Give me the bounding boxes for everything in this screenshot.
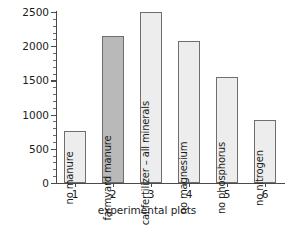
y-axis-minor-tick — [53, 135, 56, 136]
x-axis-tick — [113, 183, 114, 187]
y-axis-minor-tick — [53, 39, 56, 40]
bar[interactable]: no phosphorus — [216, 77, 238, 183]
y-axis-tick — [51, 183, 56, 184]
y-axis-minor-tick — [53, 19, 56, 20]
y-axis-tick — [51, 149, 56, 150]
y-axis-minor-tick — [53, 162, 56, 163]
bar-chart: yield (kg per hectare) 05001000150020002… — [0, 0, 294, 225]
y-axis-minor-tick — [53, 74, 56, 75]
x-axis-tick — [189, 183, 190, 187]
y-axis-minor-tick — [53, 33, 56, 34]
y-axis-tick-label: 2000 — [22, 41, 49, 52]
bar[interactable]: no manure — [64, 131, 86, 183]
x-axis-tick-label: 4 — [186, 189, 193, 200]
y-axis-minor-tick — [53, 94, 56, 95]
y-axis-minor-tick — [53, 53, 56, 54]
bar[interactable]: no magnesium — [178, 41, 200, 183]
x-axis-tick-label: 1 — [72, 189, 79, 200]
y-axis-minor-tick — [53, 87, 56, 88]
y-axis-tick-label: 1500 — [22, 75, 49, 86]
y-axis-minor-tick — [53, 67, 56, 68]
y-axis-tick-label: 2500 — [22, 7, 49, 18]
y-axis-minor-tick — [53, 156, 56, 157]
y-axis-minor-tick — [53, 176, 56, 177]
y-axis-minor-tick — [53, 108, 56, 109]
y-axis-minor-tick — [53, 142, 56, 143]
x-axis-tick — [227, 183, 228, 187]
x-axis-title: experimental plots — [0, 204, 294, 216]
y-axis-minor-tick — [53, 60, 56, 61]
bar[interactable]: chemical fertilizer – all minerals — [140, 12, 162, 183]
y-axis-tick — [51, 80, 56, 81]
x-axis-tick-label: 3 — [148, 189, 155, 200]
y-axis-tick-label: 0 — [42, 178, 49, 189]
y-axis-minor-tick — [53, 169, 56, 170]
x-axis-tick — [265, 183, 266, 187]
bar[interactable]: no nitrogen — [254, 120, 276, 183]
x-axis-tick-label: 2 — [110, 189, 117, 200]
y-axis-minor-tick — [53, 26, 56, 27]
y-axis-tick — [51, 12, 56, 13]
x-axis-tick-label: 6 — [262, 189, 269, 200]
y-axis-tick-label: 500 — [29, 144, 49, 155]
y-axis-minor-tick — [53, 121, 56, 122]
bar[interactable]: farmyard manure — [102, 36, 124, 183]
y-axis-minor-tick — [53, 128, 56, 129]
x-axis-tick — [151, 183, 152, 187]
y-axis-tick — [51, 115, 56, 116]
x-axis-line — [56, 183, 285, 184]
plot-area: 05001000150020002500no manurefarmyard ma… — [56, 12, 284, 183]
y-axis-tick — [51, 46, 56, 47]
x-axis-tick — [75, 183, 76, 187]
y-axis-minor-tick — [53, 101, 56, 102]
y-axis-tick-label: 1000 — [22, 109, 49, 120]
x-axis-tick-label: 5 — [224, 189, 231, 200]
